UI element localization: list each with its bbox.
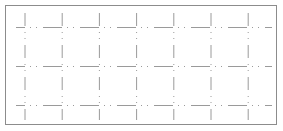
empty-chart	[0, 0, 283, 131]
plot-border	[6, 6, 277, 125]
gridlines	[16, 13, 272, 120]
plot-area	[0, 0, 283, 131]
